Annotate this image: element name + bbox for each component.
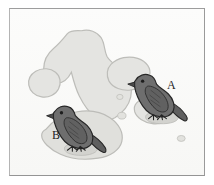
bird-b-eye bbox=[60, 111, 63, 114]
figure-frame: A B bbox=[0, 0, 214, 185]
center-lower-islet bbox=[118, 112, 126, 119]
archipelago-map-canvas bbox=[10, 9, 204, 175]
map-plate: A B bbox=[9, 8, 205, 176]
bird-a-eye bbox=[141, 79, 144, 82]
round-west-island bbox=[29, 69, 61, 97]
southeast-islet bbox=[177, 135, 185, 141]
center-upper-islet bbox=[117, 94, 123, 99]
